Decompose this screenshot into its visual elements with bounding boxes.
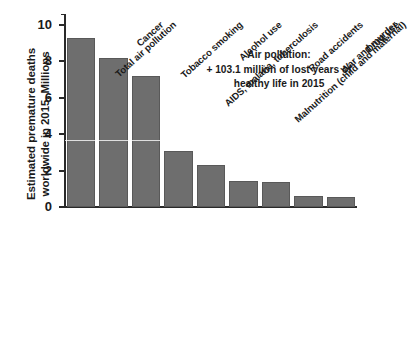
y-tick-10: 10 — [59, 24, 65, 26]
annotation-line-1: Air pollution: — [193, 48, 365, 63]
bar — [99, 58, 128, 207]
y-tick-8: 8 — [59, 60, 65, 62]
bar — [67, 38, 96, 207]
bar — [262, 182, 291, 207]
bar — [197, 165, 226, 207]
y-tick-2: 2 — [59, 170, 65, 172]
y-tick-6: 6 — [59, 97, 65, 99]
y-tick-label: 6 — [45, 89, 52, 104]
annotation-line-3: healthy life in 2015 — [193, 77, 365, 92]
y-tick-0: 0 — [59, 206, 65, 208]
y-tick-label: 0 — [45, 199, 52, 214]
y-tick-label: 4 — [45, 126, 52, 141]
bar — [294, 196, 323, 207]
y-tick-label: 2 — [45, 162, 52, 177]
y-axis-title-line-1: Estimated premature deaths — [24, 24, 38, 224]
bar — [229, 181, 258, 207]
bar — [327, 197, 356, 207]
annotation-line-2: + 103.1 million of lost years of — [193, 63, 365, 78]
air-pollution-annotation: Air pollution: + 103.1 million of lost y… — [193, 48, 365, 92]
y-tick-minor-top — [61, 14, 65, 15]
y-tick-4: 4 — [59, 133, 65, 135]
y-tick-label: 8 — [45, 53, 52, 68]
plot-area: 0246810 Total air pollutionCancerTobacco… — [65, 14, 357, 207]
bar — [164, 151, 193, 207]
bar — [132, 76, 161, 207]
y-tick-label: 10 — [38, 16, 52, 31]
y-axis-line — [64, 14, 66, 208]
